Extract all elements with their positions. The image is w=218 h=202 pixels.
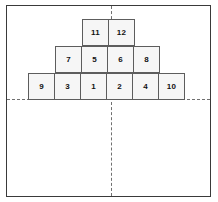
- block[interactable]: 7: [55, 46, 82, 73]
- block-label: 6: [118, 56, 123, 64]
- block-stack: 11 12 7 5 6 8 9 3: [0, 0, 218, 202]
- block-row-middle: 7 5 6 8: [55, 46, 160, 73]
- block-label: 8: [144, 56, 149, 64]
- block[interactable]: 6: [107, 46, 134, 73]
- block-label: 11: [91, 29, 100, 37]
- block-label: 3: [65, 83, 70, 91]
- block[interactable]: 4: [132, 73, 159, 100]
- block-label: 9: [39, 83, 44, 91]
- block[interactable]: 9: [28, 73, 55, 100]
- block[interactable]: 3: [54, 73, 81, 100]
- block[interactable]: 12: [108, 19, 135, 46]
- block[interactable]: 8: [133, 46, 160, 73]
- block[interactable]: 5: [81, 46, 108, 73]
- block-row-top: 11 12: [82, 19, 135, 46]
- block-label: 7: [66, 56, 71, 64]
- block-label: 4: [143, 83, 148, 91]
- block[interactable]: 10: [158, 73, 185, 100]
- block[interactable]: 2: [106, 73, 133, 100]
- block[interactable]: 11: [82, 19, 109, 46]
- block-label: 12: [117, 29, 126, 37]
- block-label: 5: [92, 56, 97, 64]
- block[interactable]: 1: [80, 73, 107, 100]
- block-label: 1: [91, 83, 96, 91]
- block-label: 2: [117, 83, 122, 91]
- block-pyramid-figure: 11 12 7 5 6 8 9 3: [0, 0, 218, 202]
- block-row-bottom: 9 3 1 2 4 10: [28, 73, 185, 100]
- block-label: 10: [167, 83, 176, 91]
